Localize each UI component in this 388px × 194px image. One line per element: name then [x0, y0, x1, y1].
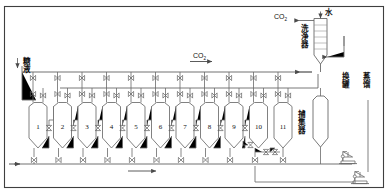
secondary-header-line — [60, 74, 318, 88]
vessel-group-10 — [243, 72, 268, 163]
co2-header-label: CO2 — [193, 52, 206, 62]
vessel-number-5: 5 — [129, 123, 143, 131]
vessel-group-4 — [103, 72, 128, 163]
vessel-number-1: 1 — [31, 123, 45, 131]
bottom-header-line — [9, 164, 352, 171]
tank-change-label: 换罐 — [341, 72, 349, 96]
vessel-group-2 — [54, 72, 79, 163]
vessel-number-10: 10 — [252, 123, 266, 131]
water-inlet-label: 水 — [325, 9, 332, 17]
diagram-canvas — [0, 0, 388, 194]
vessel-number-6: 6 — [154, 123, 168, 131]
vessel-group-5 — [127, 72, 152, 163]
co2-header-line — [22, 62, 312, 73]
collector-label: 捕集器 — [297, 110, 305, 150]
vessel-number-11: 11 — [276, 123, 290, 131]
vessel-number-3: 3 — [80, 123, 94, 131]
syrup-inlet-label: 糖液 — [22, 57, 30, 81]
vessel-number-8: 8 — [203, 123, 217, 131]
vessel-group-7 — [176, 72, 201, 163]
collector-vessel-graphic — [313, 88, 328, 164]
vessel-group-6 — [152, 72, 177, 163]
vessel-group-9 — [225, 72, 250, 163]
vessel-group-3 — [78, 72, 103, 163]
vessel-number-9: 9 — [227, 123, 241, 131]
vessel-number-4: 4 — [105, 123, 119, 131]
co2-outlet-label: CO2 — [274, 13, 287, 23]
vessel-number-2: 2 — [56, 123, 70, 131]
distillation-label: 蒸馏 — [362, 72, 370, 96]
vessel-number-7: 7 — [178, 123, 192, 131]
process-flow-diagram: CO2 水 洗浄器 CO2 糖液 捕集器 换罐 蒸馏 1 2 3 4 5 6 7… — [0, 0, 388, 194]
vessel-group-8 — [201, 72, 226, 163]
pump-group — [255, 36, 369, 184]
vessel-group-1 — [29, 72, 54, 164]
scrubber-label: 洗浄器 — [300, 24, 308, 64]
